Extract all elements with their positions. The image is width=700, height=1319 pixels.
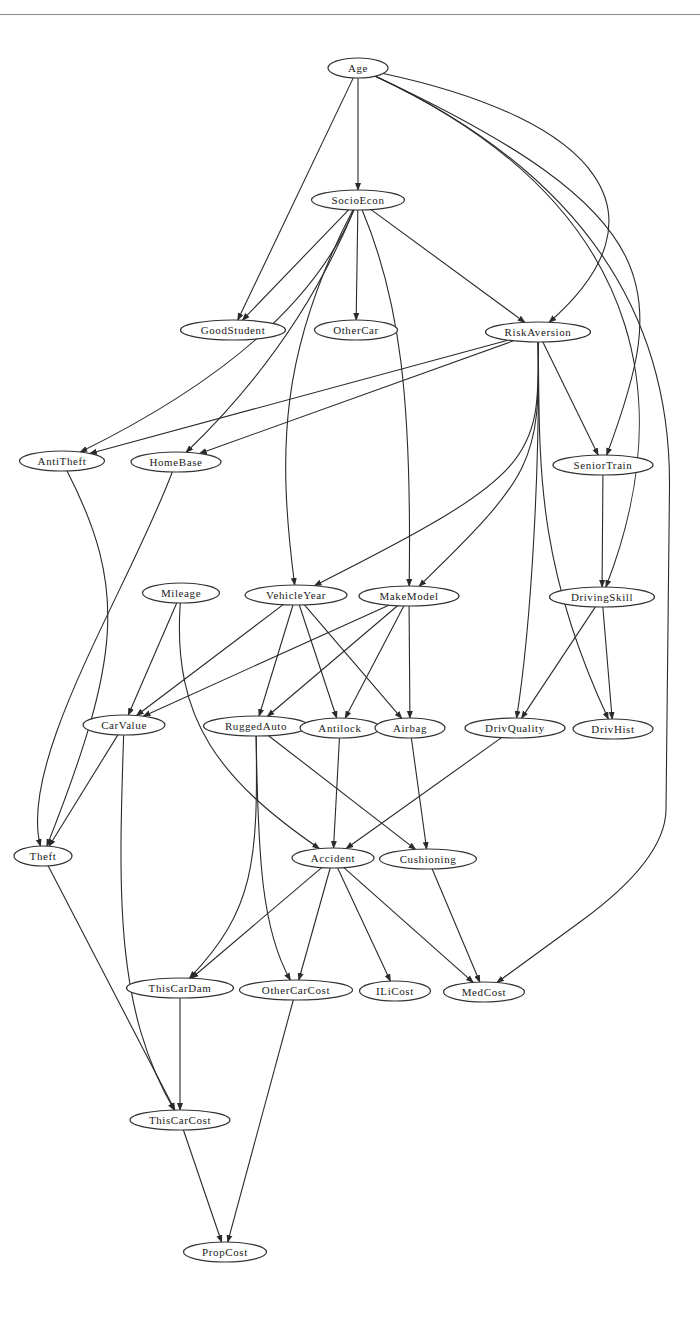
edge-airbag-to-cushioning [411,738,426,849]
edge-rugged-auto-to-this-car-dam [189,736,256,978]
edge-layer [37,73,669,1242]
node-label-accident: Accident [311,852,356,864]
edge-age-to-risk-aversion [383,73,609,322]
edge-mileage-to-car-value [128,603,176,715]
node-label-socio-econ: SocioEcon [331,194,384,206]
node-label-prop-cost: PropCost [202,1246,248,1258]
edge-socio-econ-to-risk-aversion [371,210,525,323]
node-label-driv-hist: DrivHist [591,723,634,735]
node-label-med-cost: MedCost [462,986,507,998]
edge-car-value-to-theft [49,735,118,846]
edge-accident-to-this-car-dam [191,868,321,979]
node-label-mileage: Mileage [161,587,201,599]
edge-risk-aversion-to-home-base [200,341,514,454]
edge-age-to-senior-train [375,76,640,455]
node-label-risk-aversion: RiskAversion [505,326,572,338]
edge-socio-econ-to-make-model [362,210,409,586]
edge-senior-train-to-driving-skill [602,475,603,587]
node-label-vehicle-year: VehicleYear [266,589,326,601]
edge-make-model-to-airbag [409,606,410,718]
edge-antilock-to-accident [334,738,340,848]
node-label-good-student: GoodStudent [201,324,266,336]
node-label-age: Age [348,62,368,74]
node-label-cushioning: Cushioning [400,853,457,865]
edge-socio-econ-to-other-car [356,210,358,320]
edge-risk-aversion-to-vehicle-year [314,342,538,586]
edge-car-value-to-this-car-cost [121,735,174,1110]
edge-risk-aversion-to-driv-quality [517,342,539,718]
node-label-other-car-cost: OtherCarCost [262,984,330,996]
edge-risk-aversion-to-make-model [419,342,538,586]
node-label-senior-train: SeniorTrain [574,459,633,471]
edge-socio-econ-to-good-student [242,210,348,320]
node-label-rugged-auto: RuggedAuto [225,720,287,732]
node-label-home-base: HomeBase [149,456,202,468]
node-label-ili-cost: ILiCost [376,985,414,997]
node-label-other-car: OtherCar [333,324,379,336]
node-label-theft: Theft [30,850,57,862]
node-label-driving-skill: DrivingSkill [571,591,633,603]
node-label-this-car-dam: ThisCarDam [149,982,212,994]
edge-vehicle-year-to-car-value [137,605,284,716]
node-label-driv-quality: DrivQuality [485,722,545,734]
edge-risk-aversion-to-senior-train [543,342,598,455]
edge-cushioning-to-med-cost [432,869,480,982]
node-label-airbag: Airbag [393,722,427,734]
edge-rugged-auto-to-other-car-cost [256,736,290,980]
edge-accident-to-med-cost [344,868,473,983]
edge-make-model-to-rugged-auto [267,606,397,717]
edge-accident-to-other-car-cost [299,868,330,980]
node-label-car-value: CarValue [101,719,147,731]
edge-driving-skill-to-driv-hist [603,607,612,719]
edge-risk-aversion-to-driv-hist [538,342,608,719]
edge-anti-theft-to-theft [47,471,108,846]
node-label-antilock: Antilock [318,722,361,734]
node-label-make-model: MakeModel [379,590,438,602]
edge-rugged-auto-to-cushioning [269,736,416,850]
node-label-this-car-cost: ThisCarCost [149,1114,211,1126]
node-label-anti-theft: AntiTheft [38,455,87,467]
edge-risk-aversion-to-anti-theft [90,340,508,453]
edge-other-car-cost-to-prop-cost [228,1000,294,1242]
edge-age-to-med-cost [375,76,669,982]
edge-this-car-cost-to-prop-cost [183,1130,221,1242]
